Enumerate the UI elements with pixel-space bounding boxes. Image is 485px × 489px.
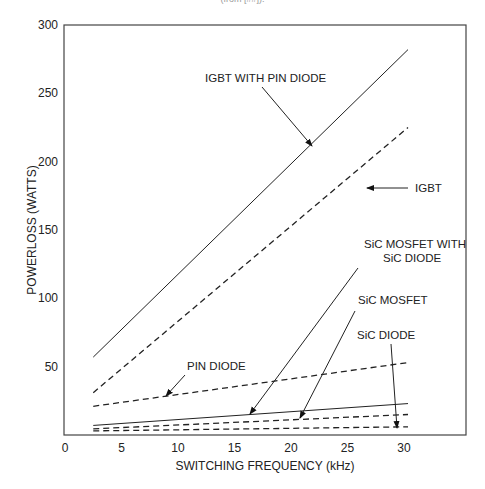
x-tick-label: 15 [228,441,242,455]
y-tick-label: 300 [38,18,58,32]
y-axis-title: POWERLOSS (WATTS) [25,165,39,294]
series-line-sic-mosfet-with-sic-diode [93,404,408,426]
y-tick-label: 150 [38,223,58,237]
y-tick-label: 100 [38,291,58,305]
arrow-igbt-with-pin-diode [262,87,312,146]
label-igbt-with-pin-diode: IGBT WITH PIN DIODE [205,72,327,84]
label-sic-diode-line2: SiC DIODE [383,252,441,264]
series-line-sic-diode [93,427,408,431]
x-axis-title: SWITCHING FREQUENCY (kHz) [175,459,354,473]
label-pin-diode: PIN DIODE [187,360,246,372]
chart: 05101520253050100150200250300 SWITCHING … [0,0,485,489]
plot-frame [64,25,466,435]
arrow-pin-diode [166,375,185,396]
series-line-igbt-with-pin-diode [93,50,408,358]
y-tick-label: 200 [38,155,58,169]
x-tick-label: 20 [284,441,298,455]
arrow-sic-mosfet [300,311,355,418]
x-tick-label: 0 [62,441,69,455]
series-layer [93,50,408,431]
series-line-igbt [93,128,408,393]
x-tick-label: 30 [397,441,411,455]
label-sic-mosfet-with: SiC MOSFET WITH [364,238,466,250]
x-tick-label: 5 [118,441,125,455]
label-sic-mosfet: SiC MOSFET [358,294,428,306]
label-sic-diode: SiC DIODE [357,329,415,341]
series-line-pin-diode [93,363,408,407]
y-tick-label: 50 [45,360,59,374]
y-tick-label: 250 [38,86,58,100]
x-tick-label: 10 [171,441,185,455]
arrow-sic-mosfet-with-sic-diode [250,268,358,414]
x-tick-label: 25 [341,441,355,455]
label-igbt: IGBT [415,182,442,194]
